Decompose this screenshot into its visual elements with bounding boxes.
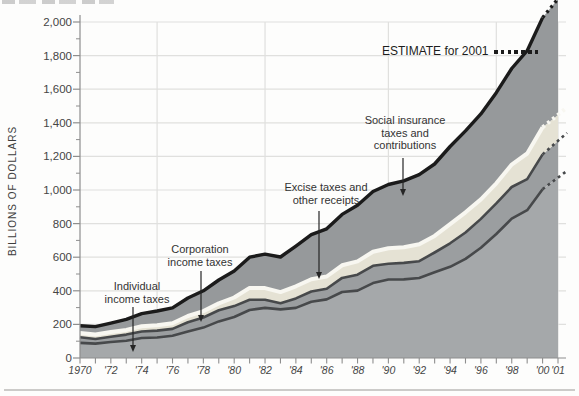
x-tick-label: '82	[258, 364, 272, 376]
annotation-individual-income-taxes: Individual income taxes	[105, 280, 170, 305]
y-tick-label: 0	[66, 352, 72, 364]
x-tick-label: '74	[135, 364, 149, 376]
x-tick-label: '88	[351, 364, 365, 376]
y-tick-label: 1,000	[43, 184, 72, 196]
x-tick-label: '01	[551, 364, 565, 376]
bottom-divider	[4, 389, 575, 391]
y-tick-label: 2,000	[43, 16, 72, 28]
y-tick-label: 200	[53, 318, 72, 330]
x-tick-label: 1970	[68, 364, 92, 376]
annotation-corporation-income-taxes: Corporation income taxes	[168, 243, 233, 268]
estimate-label: ESTIMATE for 2001	[382, 44, 488, 58]
x-tick-label: '80	[227, 364, 241, 376]
x-tick-label: '78	[197, 364, 211, 376]
y-tick-label: 800	[53, 218, 72, 230]
y-tick-label: 600	[53, 251, 72, 263]
x-tick-label: '94	[443, 364, 457, 376]
x-tick-label: '92	[412, 364, 426, 376]
y-tick-label: 1,600	[43, 83, 72, 95]
y-tick-label: 1,800	[43, 50, 72, 62]
estimate-legend: ESTIMATE for 2001	[382, 44, 539, 58]
x-tick-label: '76	[166, 364, 180, 376]
x-tick-label: '90	[382, 364, 396, 376]
y-tick-label: 1,400	[43, 117, 72, 129]
tax-receipts-chart-page: BILLIONS OF DOLLARS 02004006008001,0001,…	[0, 0, 579, 396]
x-tick-label: '00	[536, 364, 550, 376]
annotation-social-insurance-taxes: Social insurance taxes and contributions	[365, 114, 446, 152]
x-tick-label: '84	[289, 364, 303, 376]
estimate-dots-icon	[494, 50, 539, 54]
x-tick-label: '86	[320, 364, 334, 376]
x-tick-label: '96	[474, 364, 488, 376]
x-tick-label: '72	[104, 364, 118, 376]
annotation-excise-taxes-other-receipts: Excise taxes and other receipts	[284, 181, 367, 206]
y-tick-label: 400	[53, 285, 72, 297]
x-tick-label: '98	[505, 364, 519, 376]
y-tick-label: 1,200	[43, 150, 72, 162]
